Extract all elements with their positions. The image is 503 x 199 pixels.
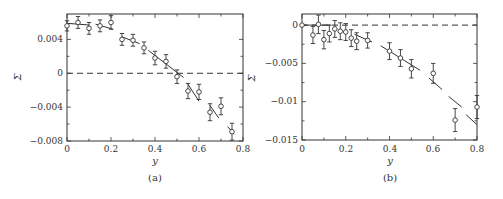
data-point [300, 23, 305, 28]
panel-b-ylabel: Σ [246, 74, 257, 83]
data-point [120, 37, 125, 42]
panel-b-ytick-0: 0 [292, 20, 298, 30]
panel-a-xtick-2: 0.4 [148, 144, 163, 154]
data-point [409, 66, 414, 71]
data-point [98, 24, 103, 29]
panel-b-data-points [300, 15, 480, 131]
panel-a-ytick-1: 0 [57, 68, 63, 78]
panel-a-frame [67, 14, 243, 141]
data-point [164, 59, 169, 64]
panel-a-xtick-0: 0 [64, 144, 70, 154]
figure: 0.004 0 −0.004 −0.008 0 0.2 0.4 0.6 0.8 … [0, 0, 503, 199]
panel-b-caption: (b) [383, 172, 397, 183]
panel-b-xtick-2: 0.4 [383, 144, 398, 154]
panel-a-chart: 0.004 0 −0.004 −0.008 0 0.2 0.4 0.6 0.8 … [12, 14, 250, 183]
panel-b-xlabel: y [386, 155, 393, 166]
data-point [197, 90, 202, 95]
panel-a-caption: (a) [148, 172, 162, 183]
data-point [175, 74, 180, 79]
data-point [316, 22, 321, 27]
panel-a-ylabel: Σ [12, 73, 23, 82]
panel-a-data-points [65, 16, 235, 140]
data-point [87, 26, 92, 31]
panel-a-ytick-2: −0.004 [30, 102, 64, 112]
data-point [230, 129, 235, 134]
data-point [475, 105, 480, 110]
data-point [327, 31, 332, 36]
data-point [131, 38, 136, 43]
panel-b-ytick-3: −0.015 [265, 135, 299, 145]
data-point [343, 30, 348, 35]
panel-a-ytick-3: −0.008 [30, 136, 64, 146]
data-point [219, 104, 224, 109]
panel-a-xtick-3: 0.6 [192, 144, 207, 154]
data-point [186, 89, 191, 94]
panel-a-xtick-1: 0.2 [104, 144, 118, 154]
data-point [398, 56, 403, 61]
data-point [333, 27, 338, 32]
panel-b-xtick-0: 0 [299, 144, 305, 154]
panel-a-ticks [67, 14, 243, 141]
data-point [65, 24, 70, 29]
data-point [354, 39, 359, 44]
panel-b-xtick-1: 0.2 [339, 144, 353, 154]
data-point [311, 33, 316, 38]
data-point [431, 71, 436, 76]
data-point [349, 36, 354, 41]
data-point [387, 49, 392, 54]
panel-a-xlabel: y [151, 155, 158, 166]
data-point [153, 56, 158, 61]
panel-a-ytick-0: 0.004 [37, 34, 63, 44]
data-point [322, 37, 327, 42]
data-point [208, 110, 213, 115]
panel-b-ytick-1: −0.005 [265, 58, 299, 68]
panel-b-xtick-3: 0.6 [426, 144, 441, 154]
panel-b-fit-segments [302, 25, 477, 125]
data-point [453, 118, 458, 123]
data-point [109, 20, 114, 25]
data-point [76, 20, 81, 25]
data-point [142, 46, 147, 51]
panel-a-xtick-4: 0.8 [236, 144, 251, 154]
panel-a-fit-segments [67, 23, 234, 134]
panel-b-chart: 0 −0.005 −0.01 −0.015 0 0.2 0.4 0.6 0.8 … [246, 14, 484, 183]
data-point [365, 38, 370, 43]
panel-b-ytick-2: −0.01 [270, 96, 298, 106]
panel-b-xtick-4: 0.8 [470, 144, 485, 154]
data-point [338, 29, 343, 34]
